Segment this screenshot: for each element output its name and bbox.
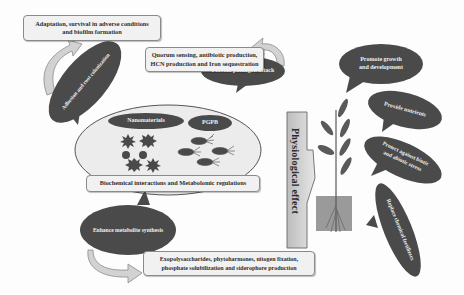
exopolysaccharides-box: Exopolysaccharides, phytoharmones, nitog… [143, 251, 315, 276]
exopoly-line1: Exopolysaccharides, phytoharmones, nitog… [160, 255, 298, 264]
exopoly-line2: phosphate solubilization and siderophore… [161, 264, 296, 273]
enhance-metabolite-label: Enhance metabolite synthesis [80, 227, 176, 235]
adaptation-box: Adaptation, survival in adverse conditio… [23, 15, 161, 41]
adaptation-line1: Adaptation, survival in adverse conditio… [35, 20, 149, 29]
nanomaterials-label: Nanomaterials [112, 117, 180, 123]
prevent-pathogen-label: Prevent pathogen attack [205, 67, 281, 75]
promote-line2: and development [348, 64, 414, 72]
promote-line1: Promote growth [348, 56, 414, 64]
pgpb-label: PGPB [190, 119, 230, 125]
biochemical-interactions-box: Biochemical interactions and Metabolomic… [86, 175, 260, 192]
plant-illustration [316, 98, 354, 232]
promote-growth-label: Promote growth and development [348, 56, 414, 71]
curved-arrow-down-right [88, 250, 142, 283]
physiological-effect-label: Physiological effect [290, 128, 301, 214]
quorum-line1: Quorum sensing, antibiotic production, [152, 51, 258, 60]
enhance-bubble-shape [80, 190, 176, 255]
diagram-canvas: Adaptation, survival in adverse conditio… [0, 0, 464, 295]
adaptation-line2: and biofilm formation [62, 28, 121, 37]
